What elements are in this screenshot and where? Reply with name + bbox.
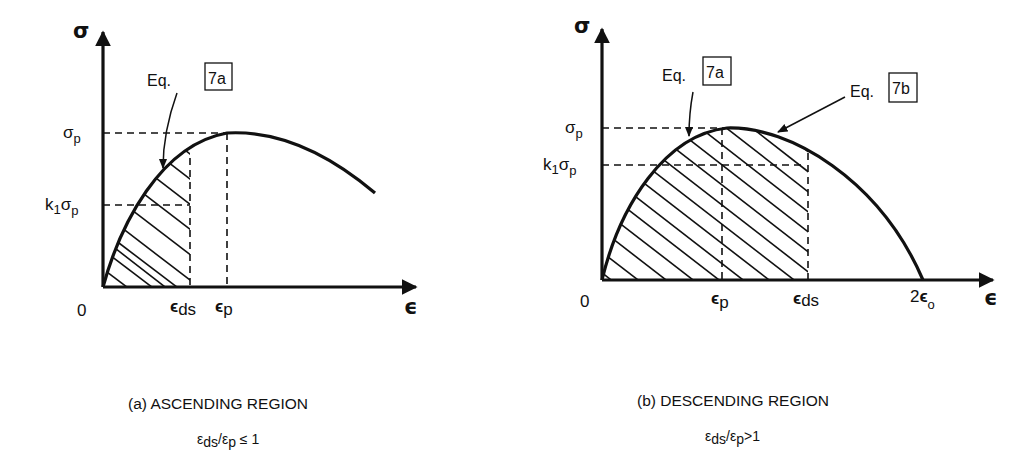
eq-7b-label: Eq. [850,83,874,100]
eq-7a-label: Eq. [662,67,686,84]
eps-ds-label: ϵds [170,297,196,319]
panel-a-ascending: Eq. 7a σ ϵ 0 σp k1σp ϵds ϵp (a) ASCENDIN… [40,19,418,450]
stress-strain-diagram: Eq. 7a σ ϵ 0 σp k1σp ϵds ϵp (a) ASCENDIN… [0,0,1031,462]
condition-a: εds/εp ≤ 1 [197,431,259,450]
eps-p-label: ϵp [711,289,729,312]
x-axis-label-epsilon: ϵ [404,295,418,319]
origin-label: 0 [580,292,589,311]
eq-7a-leader-arrow [689,92,693,136]
y-axis-label-sigma: σ [574,14,590,38]
caption-a: (a) ASCENDING REGION [128,395,308,412]
eq-7b-leader-arrow [778,97,845,132]
stress-strain-curve [602,128,923,280]
eq-7a-ref: 7a [208,70,226,87]
sigma-p-label: σp [565,118,583,141]
eq-7a-ref: 7a [706,64,724,81]
eps-ds-label: ϵds [793,289,819,310]
two-eps-o-label: 2ϵo [910,287,935,312]
eq-7a-label: Eq. [147,72,171,89]
x-axis-label-epsilon: ϵ [984,286,998,310]
caption-b: (b) DESCENDING REGION [637,392,829,409]
eps-p-label: ϵp [215,297,233,319]
y-axis-label-sigma: σ [73,19,89,43]
panel-b-descending: Eq. 7a Eq. 7b σ ϵ 0 σp k1σp ϵp ϵds 2ϵo (… [543,14,998,447]
sigma-p-label: σp [63,123,81,146]
k1-sigma-p-label: k1σp [45,195,78,218]
stress-strain-curve [103,133,375,287]
origin-label: 0 [77,301,86,320]
k1-sigma-p-label: k1σp [543,155,576,178]
eq-7b-ref: 7b [892,80,910,97]
condition-b: εds/εp>1 [705,428,760,447]
